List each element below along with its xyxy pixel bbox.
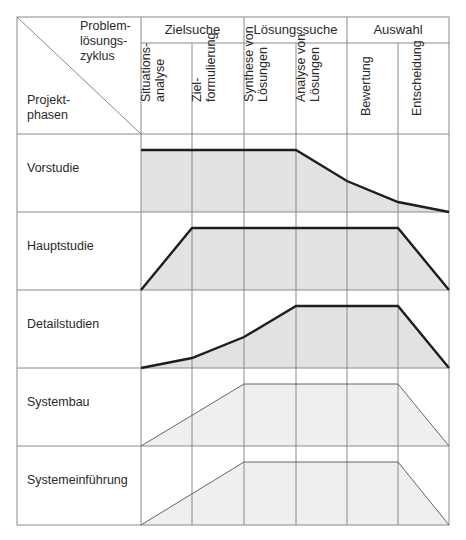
group-header-auswahl: Auswahl [347,17,449,43]
step-header-zielformulierung: Ziel- formulierung [192,43,244,134]
step-header-synthese: Synthese von Lösungen [244,43,296,134]
phase-label-systembau: Systembau [27,395,90,409]
hauptstudie-area [141,228,449,290]
phase-label-systemeinfuehrung: Systemeinführung [27,473,128,487]
systemeinfuehrung-area [141,462,449,525]
phase-label-hauptstudie: Hauptstudie [27,239,94,253]
phase-label-detailstudien: Detailstudien [27,317,99,331]
step-header-situationsanalyse: Situations- analyse [141,43,192,134]
project-phases-label: Projekt- phasen [27,93,70,123]
problem-cycle-label: Problem- lösungs- zyklus [80,19,131,64]
step-header-bewertung: Bewertung [347,43,398,134]
phase-label-vorstudie: Vorstudie [27,161,79,175]
systembau-area [141,384,449,446]
step-header-entscheidung: Entscheidung [398,43,449,134]
step-header-analyse: Analyse von Lösungen [296,43,347,134]
